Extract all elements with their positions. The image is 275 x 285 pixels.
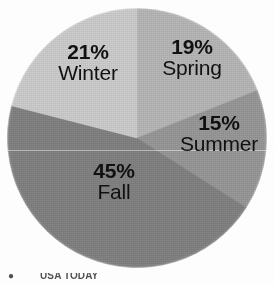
bullet-icon: ●	[8, 273, 14, 281]
source-credit-line: ● USA TODAY	[0, 273, 275, 285]
pie-chart-graphic	[7, 8, 267, 268]
pie-svg	[7, 8, 267, 268]
source-credit: USA TODAY	[40, 273, 98, 281]
pie-chart-figure: 21% Winter 19% Spring 15% Summer 45% Fal…	[0, 0, 275, 285]
